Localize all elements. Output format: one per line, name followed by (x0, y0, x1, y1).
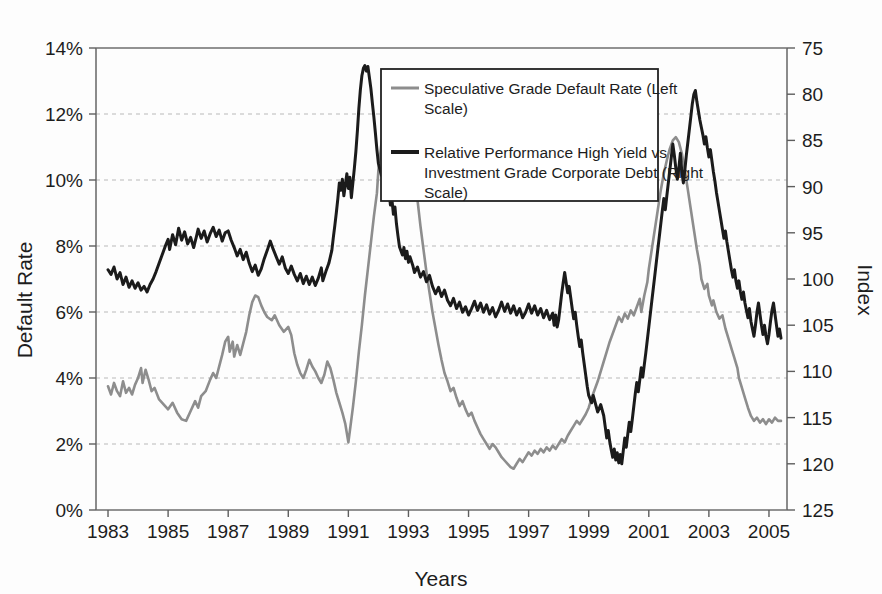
x-axis-tick-label: 2001 (628, 521, 670, 542)
x-axis-tick-label: 2003 (688, 521, 730, 542)
left-axis-tick-label: 6% (56, 302, 84, 323)
x-axis-tick-label: 1991 (327, 521, 369, 542)
legend-label-relative-performance-line3: Scale) (424, 184, 468, 201)
right-axis-tick-label: 115 (802, 408, 832, 429)
left-axis-title: Default Rate (13, 242, 36, 359)
x-axis-tick-label: 1999 (568, 521, 610, 542)
x-axis-tick-label: 1985 (147, 521, 189, 542)
x-axis-tick-label: 1987 (207, 521, 249, 542)
legend-label-speculative-grade-line2: Scale) (424, 100, 468, 117)
chart-canvas: 0%2%4%6%8%10%12%14% 75808590951001051101… (0, 0, 882, 594)
legend-label-relative-performance-line1: Relative Performance High Yield vs (424, 144, 667, 161)
right-axis-tick-label: 125 (802, 500, 834, 521)
right-axis-tick-label: 100 (802, 269, 834, 290)
right-axis-tick-label: 80 (802, 84, 823, 105)
chart-legend: Speculative Grade Default Rate (Left Sca… (381, 69, 704, 201)
chart-figure: 0%2%4%6%8%10%12%14% 75808590951001051101… (0, 0, 882, 594)
left-axis-tick-label: 0% (56, 500, 84, 521)
right-axis-title: Index (854, 264, 877, 316)
x-axis-tick-label: 1995 (447, 521, 489, 542)
x-axis-title: Years (415, 567, 468, 590)
left-axis-tick-label: 10% (45, 170, 83, 191)
left-axis-tick-label: 2% (56, 434, 84, 455)
legend-label-relative-performance-line2: Investment Grade Corporate Debt (Right (424, 164, 704, 181)
right-axis-tick-label: 90 (802, 177, 823, 198)
left-axis-tick-label: 12% (45, 104, 83, 125)
left-axis-tick-label: 4% (56, 368, 84, 389)
right-axis-tick-label: 105 (802, 315, 834, 336)
right-axis-tick-label: 75 (802, 38, 823, 59)
x-axis-tick-label: 1983 (87, 521, 129, 542)
right-axis-tick-label: 120 (802, 454, 834, 475)
right-axis-tick-label: 95 (802, 223, 823, 244)
x-axis-tick-label: 2005 (748, 521, 790, 542)
x-axis-tick-label: 1997 (507, 521, 549, 542)
right-axis-tick-label: 85 (802, 130, 823, 151)
left-axis-tick-label: 14% (45, 38, 83, 59)
legend-label-speculative-grade-line1: Speculative Grade Default Rate (Left (424, 80, 678, 97)
x-axis-tick-label: 1989 (267, 521, 309, 542)
x-axis-tick-label: 1993 (387, 521, 429, 542)
right-axis-tick-label: 110 (802, 361, 832, 382)
left-axis-tick-label: 8% (56, 236, 84, 257)
